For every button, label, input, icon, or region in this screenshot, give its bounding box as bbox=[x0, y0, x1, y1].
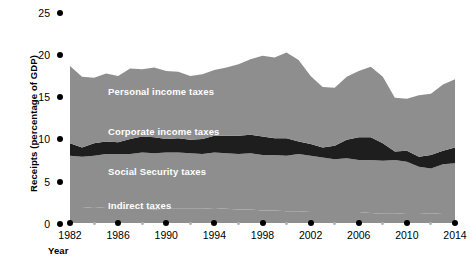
x-tick-label: 2006 bbox=[339, 230, 379, 241]
x-tick-dot-minor bbox=[93, 222, 96, 225]
x-tick-dot-minor bbox=[141, 222, 144, 225]
x-tick-dot-major bbox=[260, 220, 266, 226]
x-tick-dot-minor bbox=[333, 222, 336, 225]
x-tick-label: 1994 bbox=[194, 230, 234, 241]
x-tick-dot-major bbox=[356, 220, 362, 226]
x-tick-label: 2002 bbox=[291, 230, 331, 241]
x-tick-label: 1990 bbox=[146, 230, 186, 241]
x-axis-title: Year bbox=[48, 245, 68, 256]
x-tick-label: 1982 bbox=[50, 230, 90, 241]
x-tick-dot-minor bbox=[285, 222, 288, 225]
x-tick-label: 2014 bbox=[435, 230, 475, 241]
x-tick-dot-major bbox=[67, 220, 73, 226]
x-tick-dot-minor bbox=[381, 222, 384, 225]
x-tick-dot-major bbox=[452, 220, 458, 226]
x-tick-dot-minor bbox=[189, 222, 192, 225]
area-social-security-taxes bbox=[70, 152, 455, 213]
x-tick-label: 2010 bbox=[387, 230, 427, 241]
series-areas bbox=[70, 52, 455, 223]
x-tick-dot-major bbox=[404, 220, 410, 226]
x-tick-label: 1998 bbox=[243, 230, 283, 241]
stacked-area-chart: Receipts (percentage of GDP) 25 20 15 10… bbox=[0, 0, 476, 266]
x-tick-dot-major bbox=[308, 220, 314, 226]
plot-area bbox=[0, 0, 476, 266]
x-tick-label: 1986 bbox=[98, 230, 138, 241]
x-tick-dot-minor bbox=[237, 222, 240, 225]
